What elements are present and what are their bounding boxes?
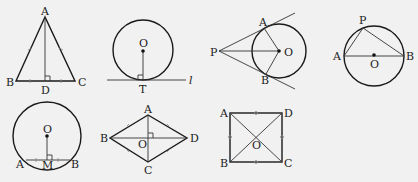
label-D: D <box>190 132 199 145</box>
label-A: A <box>219 107 229 120</box>
label-O: O <box>370 58 379 71</box>
label-A: A <box>332 50 342 63</box>
label-A: A <box>143 103 153 116</box>
figure-two-tangents: P A B O <box>210 13 306 89</box>
label-C: C <box>284 157 292 170</box>
label-C: C <box>144 164 152 177</box>
label-B: B <box>220 157 228 170</box>
label-B: B <box>100 132 108 145</box>
label-A: A <box>40 5 50 18</box>
label-A: A <box>15 158 25 171</box>
label-C: C <box>78 76 86 89</box>
label-P: P <box>359 14 367 27</box>
label-B: B <box>406 50 414 63</box>
geometry-figures: A B C D O T l P A B O P A B O <box>0 0 418 182</box>
label-O: O <box>252 139 261 152</box>
figure-inscribed-right-angle: P A B O <box>332 14 414 86</box>
figure-chord-midpoint: O A M B <box>13 102 81 172</box>
label-M: M <box>42 159 53 172</box>
label-B: B <box>71 158 79 171</box>
figure-square: A B C D O <box>219 107 293 170</box>
label-D: D <box>284 107 293 120</box>
label-D: D <box>41 84 50 97</box>
label-P: P <box>210 46 218 59</box>
label-A: A <box>258 16 268 29</box>
label-O: O <box>138 138 147 151</box>
label-O: O <box>284 46 293 59</box>
figure-rhombus: A B C D O <box>100 103 199 177</box>
figure-isosceles-triangle: A B C D <box>6 5 86 97</box>
figure-tangent-line: O T l <box>107 20 193 96</box>
label-O: O <box>139 37 148 50</box>
label-B: B <box>261 74 269 87</box>
label-B: B <box>6 76 14 89</box>
label-T: T <box>139 83 147 96</box>
label-O: O <box>43 123 52 136</box>
label-l: l <box>189 74 193 87</box>
